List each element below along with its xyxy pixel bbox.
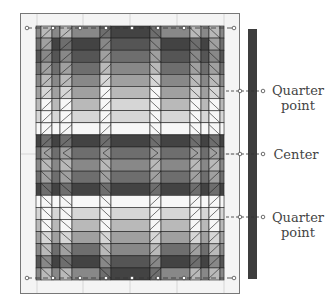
edge-strip-left [36, 111, 41, 123]
edge-strip-right [220, 244, 224, 256]
narrow-strip-left [52, 99, 60, 111]
narrow-strip-left [52, 256, 60, 268]
diag-column-right-inner [150, 147, 161, 159]
edge-strip-left [36, 256, 41, 268]
edge-strip-left [36, 135, 41, 147]
edge-strip-right [220, 135, 224, 147]
center-strip [111, 244, 150, 256]
edge-strip-left [36, 74, 41, 86]
center-strip [111, 38, 150, 50]
side-strip-left [72, 244, 100, 256]
center-strip [111, 50, 150, 62]
narrow-strip-right [201, 183, 209, 195]
guide-point [232, 26, 236, 30]
guide-point [182, 276, 186, 280]
side-strip-right [161, 195, 190, 207]
narrow-strip-right [201, 111, 209, 123]
narrow-strip-right [201, 50, 209, 62]
label-line: Center [268, 147, 324, 162]
side-strip-right [161, 207, 190, 219]
side-strip-right [161, 62, 190, 74]
center-strip [111, 256, 150, 268]
guide-point [25, 26, 29, 30]
center-strip [111, 195, 150, 207]
edge-strip-left [36, 147, 41, 159]
guide-point [156, 276, 160, 280]
diag-column-left-mid [60, 147, 72, 159]
narrow-strip-left [52, 171, 60, 183]
side-strip-left [72, 207, 100, 219]
center-strip [111, 123, 150, 135]
side-strip-left [72, 159, 100, 171]
side-strip-left [72, 256, 100, 268]
narrow-strip-right [201, 147, 209, 159]
side-strip-left [72, 135, 100, 147]
side-strip-left [72, 62, 100, 74]
edge-strip-right [220, 220, 224, 232]
side-strip-right [161, 183, 190, 195]
side-strip-right [161, 38, 190, 50]
narrow-strip-left [52, 244, 60, 256]
diag-column-left-outer [41, 147, 52, 159]
center-strip [111, 135, 150, 147]
edge-strip-left [36, 244, 41, 256]
label-center: Center [268, 147, 324, 162]
edge-strip-right [220, 171, 224, 183]
edge-strip-right [220, 207, 224, 219]
quilt-diagram: Quarter point Center Quarter point [0, 0, 333, 303]
narrow-strip-left [52, 220, 60, 232]
label-quarter-point-top: Quarter point [268, 83, 328, 113]
side-strip-left [72, 171, 100, 183]
center-strip [111, 62, 150, 74]
side-strip-right [161, 244, 190, 256]
narrow-strip-right [201, 195, 209, 207]
narrow-strip-right [201, 62, 209, 74]
side-strip-right [161, 256, 190, 268]
edge-strip-right [220, 147, 224, 159]
side-strip-right [161, 111, 190, 123]
marker-point-quarter-bottom [261, 215, 265, 219]
narrow-strip-right [201, 99, 209, 111]
edge-strip-left [36, 62, 41, 74]
guide-point [25, 276, 29, 280]
center-strip [111, 99, 150, 111]
center-strip [111, 171, 150, 183]
edge-strip-right [220, 183, 224, 195]
narrow-strip-left [52, 50, 60, 62]
side-strip-right [161, 171, 190, 183]
narrow-strip-right [201, 159, 209, 171]
label-line: point [268, 225, 328, 240]
center-strip [111, 159, 150, 171]
narrow-strip-right [201, 220, 209, 232]
narrow-strip-right [201, 74, 209, 86]
side-strip-right [161, 123, 190, 135]
diag-column-right-outer [209, 147, 220, 159]
narrow-strip-left [52, 147, 60, 159]
side-strip-right [161, 147, 190, 159]
side-strip-right [161, 50, 190, 62]
side-strip-right [161, 74, 190, 86]
guide-point [78, 26, 82, 30]
side-strip-left [72, 183, 100, 195]
side-strip-right [161, 220, 190, 232]
edge-strip-right [220, 50, 224, 62]
guide-point [182, 26, 186, 30]
side-strip-right [161, 159, 190, 171]
narrow-strip-right [201, 207, 209, 219]
narrow-strip-right [201, 135, 209, 147]
edge-strip-left [36, 99, 41, 111]
side-strip-left [72, 123, 100, 135]
narrow-strip-left [52, 86, 60, 98]
narrow-strip-left [52, 159, 60, 171]
side-strip-left [72, 74, 100, 86]
guide-point [51, 276, 55, 280]
narrow-strip-left [52, 232, 60, 244]
edge-strip-left [36, 220, 41, 232]
edge-strip-right [220, 123, 224, 135]
side-strip-left [72, 195, 100, 207]
label-quarter-point-bottom: Quarter point [268, 210, 328, 240]
narrow-strip-left [52, 135, 60, 147]
narrow-strip-left [52, 123, 60, 135]
guide-point [51, 26, 55, 30]
narrow-strip-left [52, 62, 60, 74]
